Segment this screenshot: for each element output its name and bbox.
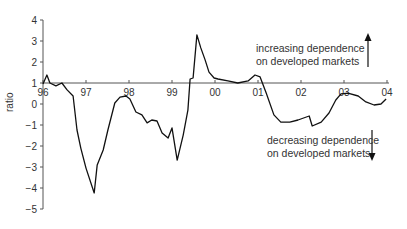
y-tick-label: 3 [31,36,37,47]
y-tick-label: 4 [31,15,37,26]
x-tick-label: 01 [252,87,264,98]
annotation-decreasing-line2: on developed markets [267,147,379,160]
annotation-decreasing: decreasing dependence on developed marke… [267,134,379,160]
y-tick-label: −2 [26,141,38,152]
annotation-decreasing-line1: decreasing dependence [267,134,379,147]
y-tick-label: 0 [31,99,37,110]
x-tick-label: 97 [80,87,92,98]
y-tick-label: −3 [26,162,38,173]
x-tick-label: 99 [166,87,178,98]
arrow-up-head-icon [365,33,372,41]
y-tick-label: −5 [26,204,38,215]
x-tick-label: 96 [37,87,49,98]
x-tick-label: 04 [381,87,393,98]
y-axis-label: ratio [4,93,15,112]
y-axis: 43210−1−2−3−4−5 [26,15,43,215]
annotation-increasing-line2: on developed markets [256,55,365,68]
x-tick-label: 00 [209,87,221,98]
y-tick-label: −1 [26,120,38,131]
annotation-increasing-line1: increasing dependence [256,42,365,55]
x-tick-label: 03 [338,87,350,98]
y-tick-label: −4 [26,183,38,194]
line-chart: 43210−1−2−3−4−5 969798990001020304 [0,0,407,229]
x-tick-label: 02 [295,87,307,98]
y-tick-label: 2 [31,57,37,68]
annotation-increasing: increasing dependence on developed marke… [256,42,365,68]
